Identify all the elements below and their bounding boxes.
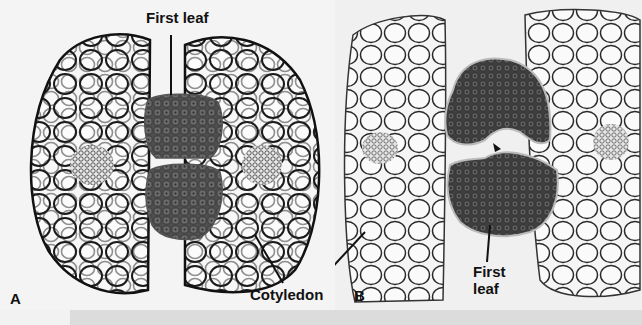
- label-cotyledon: Cotyledon: [250, 287, 323, 303]
- micrograph-a: [0, 0, 335, 310]
- label-first-leaf-b-line1: First: [473, 264, 506, 280]
- panel-b: First leaf B: [335, 0, 642, 310]
- label-first-leaf-b-line2: leaf: [473, 281, 499, 297]
- arrowhead-marker: [493, 143, 501, 152]
- next-figure-edge: [70, 310, 642, 325]
- panel-letter-b: B: [354, 287, 365, 304]
- label-first-leaf-a: First leaf: [146, 10, 209, 26]
- panel-a: First leaf Cotyledon A: [0, 0, 335, 310]
- panel-letter-a: A: [10, 290, 21, 307]
